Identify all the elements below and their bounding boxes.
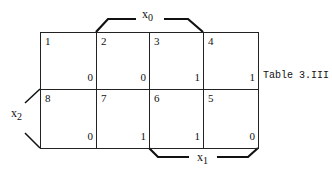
variable-label-x2: x2 <box>11 106 22 122</box>
var-sub: 1 <box>203 155 208 166</box>
kmap-cell: 7 1 <box>96 89 150 149</box>
kmap-cell: 4 1 <box>203 32 259 90</box>
cell-index: 1 <box>45 35 51 47</box>
cell-value: 1 <box>250 71 256 83</box>
var-sub: 0 <box>148 12 153 23</box>
table-caption: Table 3.III <box>263 70 329 81</box>
cell-index: 8 <box>45 92 51 104</box>
kmap-cell: 8 0 <box>40 89 97 149</box>
cell-value: 0 <box>88 130 94 142</box>
variable-label-x1: x1 <box>197 150 208 166</box>
cell-value: 0 <box>250 130 256 142</box>
cell-index: 5 <box>208 92 214 104</box>
cell-value: 0 <box>88 71 94 83</box>
cell-value: 0 <box>141 71 147 83</box>
variable-label-x0: x0 <box>142 7 153 23</box>
cell-value: 1 <box>195 130 201 142</box>
cell-index: 2 <box>101 35 107 47</box>
cell-index: 3 <box>154 35 160 47</box>
cell-value: 1 <box>141 130 147 142</box>
cell-index: 7 <box>101 92 107 104</box>
kmap-cell: 3 1 <box>149 32 204 90</box>
cell-value: 1 <box>195 71 201 83</box>
cell-index: 4 <box>208 35 214 47</box>
kmap-cell: 6 1 <box>149 89 204 149</box>
cell-index: 6 <box>154 92 160 104</box>
kmap-cell: 2 0 <box>96 32 150 90</box>
kmap-cell: 5 0 <box>203 89 259 149</box>
var-sub: 2 <box>17 111 22 122</box>
kmap-cell: 1 0 <box>40 32 97 90</box>
